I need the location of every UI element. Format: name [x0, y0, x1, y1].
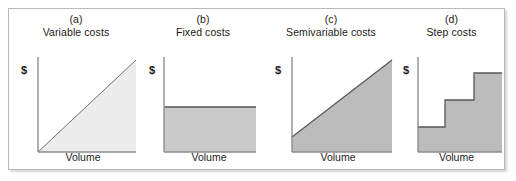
- x-axis-label-a: Volume: [25, 151, 141, 163]
- panel-title-c: (c) Semivariable costs: [265, 13, 397, 39]
- plot-area-a: $ Volume: [11, 47, 141, 169]
- panel-fixed-costs: (b) Fixed costs $ Volume: [145, 9, 261, 169]
- y-axis-label-a: $: [21, 65, 27, 76]
- y-axis-label-c: $: [275, 65, 281, 76]
- panel-name-b: Fixed costs: [145, 26, 261, 39]
- chart-variable-costs: [35, 57, 141, 157]
- x-axis-label-d: Volume: [411, 151, 502, 163]
- panel-title-a: (a) Variable costs: [11, 13, 141, 39]
- chart-fixed-costs: [161, 57, 259, 157]
- panel-name-d: Step costs: [399, 26, 504, 39]
- panel-letter-d: (d): [399, 13, 504, 26]
- panel-title-b: (b) Fixed costs: [145, 13, 261, 39]
- x-axis-label-b: Volume: [157, 151, 261, 163]
- panel-letter-c: (c): [265, 13, 397, 26]
- y-axis-label-d: $: [403, 65, 409, 76]
- panel-variable-costs: (a) Variable costs $ Volume: [11, 9, 141, 169]
- panel-name-a: Variable costs: [11, 26, 141, 39]
- plot-area-b: $ Volume: [145, 47, 261, 169]
- chart-semivariable-costs: [289, 57, 397, 157]
- chart-step-costs: [415, 57, 505, 157]
- panel-container: (a) Variable costs $ Volume (b) Fixed co…: [9, 9, 504, 169]
- panel-letter-a: (a): [11, 13, 141, 26]
- panel-step-costs: (d) Step costs $ Volume: [399, 9, 504, 169]
- step-cost-area: [418, 73, 502, 152]
- panel-title-d: (d) Step costs: [399, 13, 504, 39]
- semivariable-cost-area: [292, 60, 392, 152]
- panel-letter-b: (b): [145, 13, 261, 26]
- panel-semivariable-costs: (c) Semivariable costs $ Volume: [265, 9, 397, 169]
- figure-frame: (a) Variable costs $ Volume (b) Fixed co…: [8, 8, 505, 170]
- y-axis-label-b: $: [149, 65, 155, 76]
- fixed-cost-area: [164, 107, 256, 152]
- panel-name-c: Semivariable costs: [265, 26, 397, 39]
- plot-area-d: $ Volume: [399, 47, 504, 169]
- plot-area-c: $ Volume: [265, 47, 397, 169]
- x-axis-label-c: Volume: [279, 151, 397, 163]
